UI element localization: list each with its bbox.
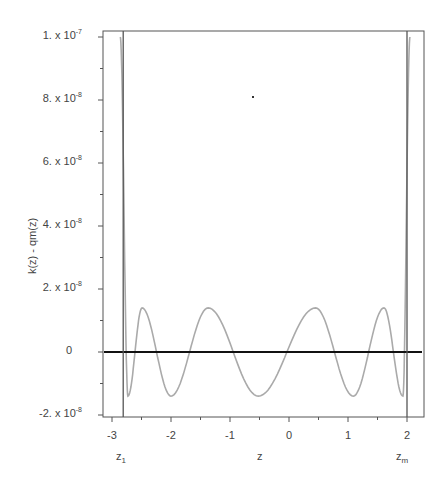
y-tick-label: 6. x 10-8 [0, 155, 82, 167]
plot-frame [103, 31, 424, 417]
x-tick-label: 2 [395, 429, 419, 441]
y-tick-label: 2. x 10-8 [0, 281, 82, 293]
y-tick-label: 0 [0, 344, 72, 356]
y-tick-label: -2. x 10-8 [0, 407, 82, 419]
curve-k-minus-qm [120, 37, 410, 396]
x-ticks [112, 417, 407, 422]
y-axis-title: k(z) - qm(z) [26, 206, 38, 286]
z1-label-sub: 1 [122, 456, 126, 465]
z1-label: z1 [116, 450, 126, 465]
x-tick-label: 0 [277, 429, 301, 441]
zm-label: zm [396, 450, 408, 465]
y-tick-label: 1. x 10-7 [0, 29, 82, 41]
x-axis-title: z [257, 450, 263, 462]
x-tick-label: 1 [336, 429, 360, 441]
y-ticks [98, 37, 103, 415]
x-tick-label: -1 [218, 429, 242, 441]
y-tick-label: 4. x 10-8 [0, 218, 82, 230]
stray-dot [252, 96, 254, 98]
y-tick-label: 8. x 10-8 [0, 92, 82, 104]
x-tick-label: -2 [159, 429, 183, 441]
x-tick-label: -3 [100, 429, 124, 441]
zm-label-sub: m [402, 456, 409, 465]
